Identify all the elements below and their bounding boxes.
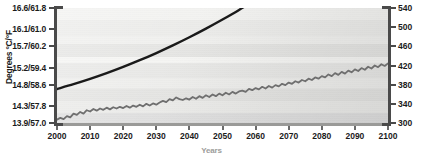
x-tick-label-5: 2050: [213, 131, 232, 141]
right-tick-label-1: 340: [398, 99, 412, 109]
x-tick-1: [89, 126, 91, 130]
right-tick-label-5: 500: [398, 22, 412, 32]
left-tick-2: [49, 84, 54, 86]
x-tick-3: [155, 126, 157, 130]
x-tick-label-8: 2080: [312, 131, 331, 141]
right-tick-label-0: 300: [398, 118, 412, 128]
right-tick-6: [391, 7, 396, 9]
left-tick-3: [49, 67, 54, 69]
left-tick-label-0: 13.9/57.0: [12, 118, 46, 128]
x-tick-10: [387, 126, 389, 130]
x-tick-label-9: 2090: [345, 131, 364, 141]
right-tick-3: [391, 65, 396, 67]
left-axis-spine: [54, 6, 57, 125]
x-tick-label-1: 2010: [81, 131, 100, 141]
left-tick-4: [49, 45, 54, 47]
left-tick-6: [49, 7, 54, 9]
left-tick-label-5: 16.1/61.0: [12, 24, 46, 34]
plot-area: [57, 8, 388, 123]
x-tick-2: [122, 126, 124, 130]
x-tick-0: [56, 126, 58, 130]
left-tick-0: [49, 122, 54, 124]
right-tick-4: [391, 45, 396, 47]
x-tick-6: [255, 126, 257, 130]
right-tick-0: [391, 122, 396, 124]
left-tick-label-3: 15.2/59.4: [12, 63, 46, 73]
climate-chart: Degrees °C/°F Years 13.9/57.014.3/57.814…: [0, 0, 423, 153]
x-tick-label-4: 2040: [180, 131, 199, 141]
left-tick-label-1: 14.3/57.8: [12, 101, 46, 111]
left-tick-label-6: 16.6/61.8: [12, 3, 46, 13]
right-tick-2: [391, 84, 396, 86]
left-tick-label-4: 15.7/60.2: [12, 41, 46, 51]
x-tick-8: [321, 126, 323, 130]
x-tick-7: [288, 126, 290, 130]
x-tick-label-10: 2100: [379, 131, 398, 141]
right-tick-label-6: 540: [398, 3, 412, 13]
series-global-temperature: [57, 63, 388, 119]
left-tick-1: [49, 105, 54, 107]
x-tick-4: [188, 126, 190, 130]
x-tick-label-3: 2030: [147, 131, 166, 141]
x-tick-label-7: 2070: [279, 131, 298, 141]
series-layer: [57, 8, 388, 123]
right-tick-label-2: 380: [398, 80, 412, 90]
left-tick-label-2: 14.8/58.6: [12, 80, 46, 90]
series-co2-concentration: [57, 8, 305, 89]
x-tick-label-2: 2020: [114, 131, 133, 141]
left-tick-5: [49, 28, 54, 30]
right-axis-cap: [382, 6, 391, 9]
x-axis-title: Years: [0, 146, 423, 153]
x-tick-5: [222, 126, 224, 130]
x-tick-label-6: 2060: [246, 131, 265, 141]
x-tick-9: [354, 126, 356, 130]
right-tick-label-4: 460: [398, 41, 412, 51]
left-axis-cap: [54, 6, 63, 9]
right-tick-label-3: 420: [398, 61, 412, 71]
x-tick-label-0: 2000: [48, 131, 67, 141]
right-tick-1: [391, 103, 396, 105]
right-tick-5: [391, 26, 396, 28]
